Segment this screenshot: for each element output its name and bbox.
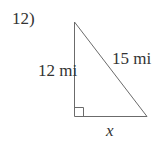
- right-angle-marker-icon: [75, 108, 84, 117]
- horizontal-leg-label: x: [106, 122, 114, 139]
- vertical-leg-label: 12 mi: [38, 62, 77, 79]
- right-triangle-figure: [0, 0, 162, 141]
- hypotenuse: [75, 22, 148, 117]
- hypotenuse-label: 15 mi: [112, 50, 151, 67]
